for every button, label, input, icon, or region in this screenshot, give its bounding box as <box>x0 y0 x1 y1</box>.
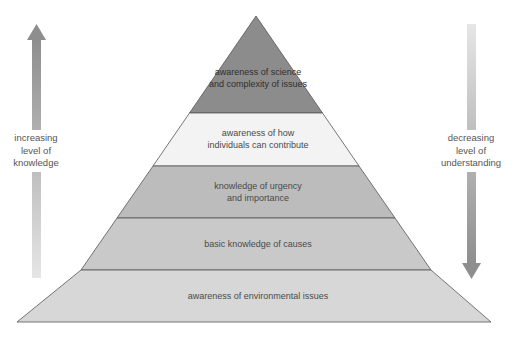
level-4-label: awareness of how individuals can contrib… <box>207 127 308 151</box>
left-arrow-label: increasing level of knowledge <box>1 130 71 172</box>
level-2-label: basic knowledge of causes <box>204 238 312 250</box>
level-5 <box>190 16 323 113</box>
label-line: and complexity of issues <box>209 78 307 90</box>
level-3-label: knowledge of urgency and importance <box>214 180 302 204</box>
label-line: understanding <box>432 157 510 170</box>
level-1-label: awareness of environmental issues <box>188 290 329 302</box>
label-line: individuals can contribute <box>207 139 308 151</box>
level-5-label: awareness of science and complexity of i… <box>209 66 307 90</box>
label-line: and importance <box>214 192 302 204</box>
label-line: increasing <box>1 132 71 145</box>
label-line: awareness of environmental issues <box>188 290 329 302</box>
label-line: awareness of science <box>209 66 307 78</box>
label-line: level of <box>1 145 71 158</box>
label-line: decreasing <box>432 132 510 145</box>
label-line: knowledge of urgency <box>214 180 302 192</box>
right-arrow-label: decreasing level of understanding <box>432 130 510 172</box>
label-line: basic knowledge of causes <box>204 238 312 250</box>
label-line: knowledge <box>1 157 71 170</box>
label-line: level of <box>432 145 510 158</box>
label-line: awareness of how <box>207 127 308 139</box>
